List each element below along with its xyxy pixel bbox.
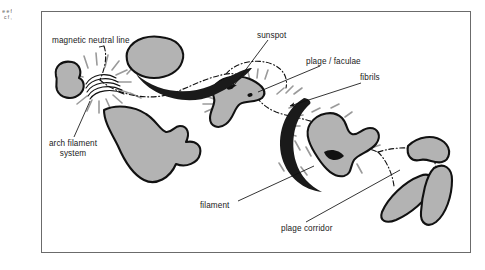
plage-blob-lower-large (104, 107, 200, 183)
plage-blob-left-small (56, 62, 84, 98)
plage-blob-far-right-a (408, 137, 449, 162)
plage-blob-sunspot-right (308, 113, 379, 176)
label-plage-corridor: plage corridor (281, 224, 332, 234)
label-arch-filament-system-line2: system (28, 149, 118, 159)
label-filament: filament (200, 201, 229, 211)
label-magnetic-neutral-line: magnetic neutral line (52, 36, 130, 46)
label-sunspot: sunspot (257, 31, 286, 41)
leader-arch-filament-system (74, 101, 90, 137)
label-plage-faculae: plage / faculae (306, 57, 361, 67)
leader-magnetic-neutral-line (99, 46, 104, 47)
label-fibrils: fibrils (360, 73, 380, 83)
label-arch-filament-system-line1: arch filament (28, 139, 118, 149)
plage-blob-upper (127, 37, 184, 79)
leader-fibrils (290, 83, 361, 106)
arch-filament-system (86, 75, 124, 99)
figure-root: e e f c f , .blob{fill:#b3b3b3;stroke:#1… (0, 0, 485, 270)
